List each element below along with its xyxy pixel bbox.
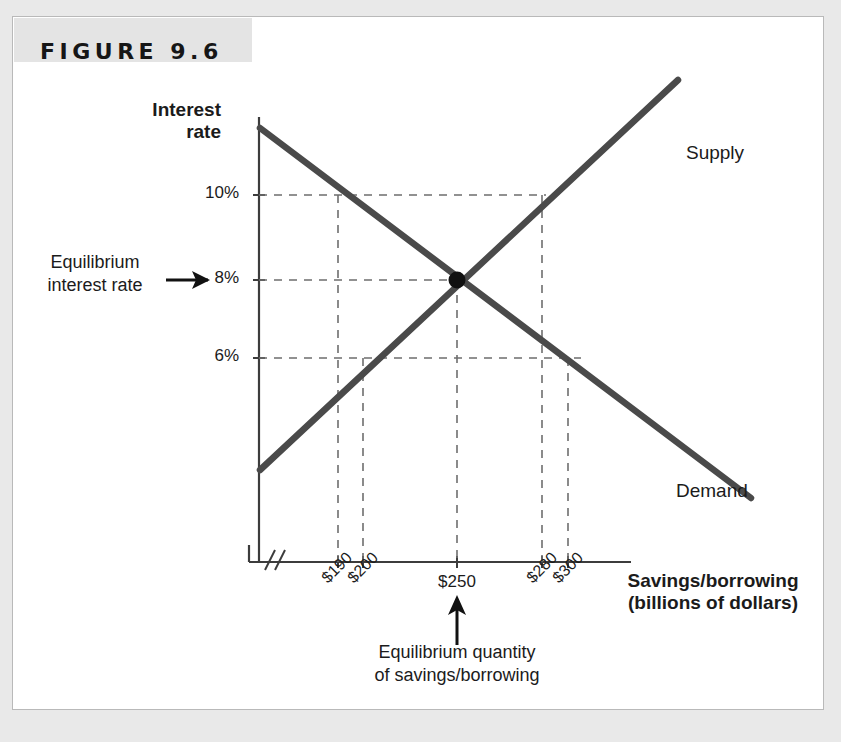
x-axis-title-line1: Savings/borrowing [613, 570, 813, 592]
x-axis-title: Savings/borrowing (billions of dollars) [613, 570, 813, 615]
x-tick-label-250: $250 [417, 572, 497, 592]
eq-qty-line2: of savings/borrowing [307, 664, 607, 687]
demand-curve-label: Demand [676, 480, 748, 502]
x-axis-title-line2: (billions of dollars) [613, 592, 813, 614]
eq-rate-line1: Equilibrium [21, 251, 169, 274]
axis-break-mark-1 [265, 550, 275, 570]
y-tick-label-8: 8% [161, 268, 239, 288]
demand-curve [260, 128, 751, 498]
figure-card: FIGURE 9.6 [12, 16, 824, 710]
equilibrium-quantity-label: Equilibrium quantity of savings/borrowin… [307, 641, 607, 686]
y-axis-title: Interest rate [71, 99, 221, 144]
supply-curve-label: Supply [686, 142, 744, 164]
y-axis-title-line2: rate [71, 121, 221, 143]
eq-rate-line2: interest rate [21, 274, 169, 297]
equilibrium-point [449, 272, 466, 289]
y-axis-title-line1: Interest [71, 99, 221, 121]
eq-qty-line1: Equilibrium quantity [307, 641, 607, 664]
axis-break-mark-2 [275, 550, 285, 570]
supply-curve [260, 80, 678, 470]
y-tick-label-6: 6% [161, 346, 239, 366]
y-tick-label-10: 10% [161, 183, 239, 203]
equilibrium-interest-rate-label: Equilibrium interest rate [21, 251, 169, 296]
